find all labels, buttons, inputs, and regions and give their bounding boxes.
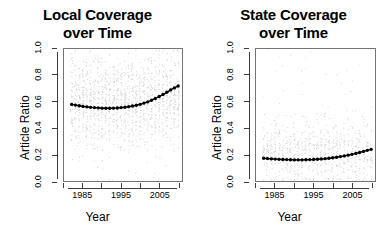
x-tick-1980 <box>255 183 256 188</box>
y-tick-0.6 <box>244 101 249 102</box>
y-tick-label-0.6: 0.6 <box>226 89 235 113</box>
y-tick-0.8 <box>52 74 57 75</box>
x-tick-1990 <box>101 183 102 188</box>
y-tick-0.4 <box>244 128 249 129</box>
y-tick-0.4 <box>52 128 57 129</box>
y-axis-title-state: Article Ratio <box>210 95 224 160</box>
x-tick-2000 <box>333 183 334 188</box>
y-tick-label-0.0: 0.0 <box>226 170 235 194</box>
y-tick-label-0.4: 0.4 <box>34 116 43 140</box>
y-tick-label-0.8: 0.8 <box>226 62 235 86</box>
x-tick-label-1995: 1995 <box>101 190 141 201</box>
x-tick-label-1985: 1985 <box>62 190 102 201</box>
panel-title-state-line1: State Coverage <box>196 6 391 24</box>
y-tick-label-0.0: 0.0 <box>34 170 43 194</box>
x-tick-2000 <box>140 183 141 188</box>
y-tick-0.0 <box>52 182 57 183</box>
y-tick-label-0.2: 0.2 <box>34 143 43 167</box>
x-tick-1985 <box>82 183 83 188</box>
plot-area-local <box>63 48 183 182</box>
x-tick-label-1995: 1995 <box>294 190 334 201</box>
x-axis-title-local: Year <box>0 210 195 224</box>
y-tick-label-1.0: 1.0 <box>34 36 43 60</box>
x-axis-line-local <box>68 188 177 189</box>
plot-area-state <box>255 48 376 182</box>
panel-title-local-line2: over Time <box>0 24 195 42</box>
panel-local-coverage: Local Coverage over Time Article Ratio Y… <box>0 0 195 240</box>
x-tick-2005 <box>352 183 353 188</box>
x-tick-2010 <box>179 183 180 188</box>
y-tick-0.0 <box>244 182 249 183</box>
x-tick-2010 <box>372 183 373 188</box>
x-tick-label-2005: 2005 <box>140 190 180 201</box>
y-axis-line-local <box>57 52 58 179</box>
panel-title-local: Local Coverage over Time <box>0 6 195 42</box>
panel-state-coverage: State Coverage over Time Article Ratio Y… <box>196 0 391 240</box>
x-tick-1995 <box>121 183 122 188</box>
x-tick-label-2005: 2005 <box>333 190 373 201</box>
x-tick-1995 <box>313 183 314 188</box>
y-axis-line-state <box>249 52 250 179</box>
y-tick-label-1.0: 1.0 <box>226 36 235 60</box>
y-tick-label-0.6: 0.6 <box>34 89 43 113</box>
trend-line-state <box>256 49 375 181</box>
x-tick-1980 <box>63 183 64 188</box>
x-tick-2005 <box>159 183 160 188</box>
x-tick-1985 <box>274 183 275 188</box>
y-tick-0.2 <box>244 155 249 156</box>
figure-canvas: Local Coverage over Time Article Ratio Y… <box>0 0 391 240</box>
y-tick-0.2 <box>52 155 57 156</box>
y-tick-0.6 <box>52 101 57 102</box>
y-tick-label-0.2: 0.2 <box>226 143 235 167</box>
x-axis-title-state: Year <box>192 210 387 224</box>
y-tick-0.8 <box>244 74 249 75</box>
panel-title-local-line1: Local Coverage <box>0 6 195 24</box>
x-tick-label-1985: 1985 <box>255 190 295 201</box>
y-tick-1.0 <box>244 48 249 49</box>
trend-line-local <box>64 49 182 181</box>
y-tick-label-0.4: 0.4 <box>226 116 235 140</box>
x-axis-line-state <box>260 188 369 189</box>
x-tick-1990 <box>294 183 295 188</box>
y-tick-label-0.8: 0.8 <box>34 62 43 86</box>
y-axis-title-local: Article Ratio <box>18 95 32 160</box>
y-tick-1.0 <box>52 48 57 49</box>
